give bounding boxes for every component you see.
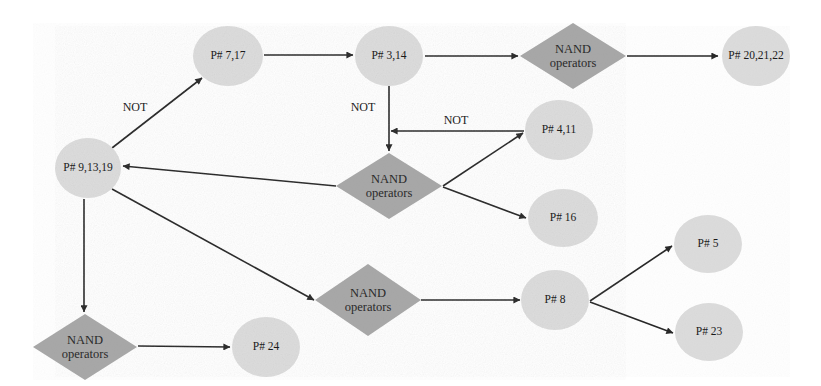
- label-nand-top: NAND operators: [550, 42, 597, 71]
- label-p5: P# 5: [698, 237, 719, 250]
- label-nand-mid: NAND operators: [366, 172, 413, 201]
- edge-label-not-p4-to-nand: NOT: [444, 114, 469, 127]
- nand-left-line1: NAND: [62, 333, 109, 347]
- state-nodes: [55, 26, 790, 377]
- edge-nand-mid-to-p9: [123, 166, 336, 186]
- edge-p8-to-p5: [590, 246, 672, 301]
- edge-nand-left-to-p24: [138, 346, 230, 347]
- label-nand-left: NAND operators: [62, 333, 109, 362]
- nand-mid-line2: operators: [366, 186, 413, 200]
- edge-p8-to-p23: [590, 302, 673, 333]
- label-p4-11: P# 4,11: [542, 123, 577, 136]
- label-p24: P# 24: [253, 340, 280, 353]
- nand-low-line1: NAND: [345, 286, 392, 300]
- label-nand-low: NAND operators: [345, 286, 392, 315]
- edge-nand-mid-to-p4: [443, 133, 523, 186]
- nand-top-line1: NAND: [550, 42, 597, 56]
- nand-left-line2: operators: [62, 347, 109, 361]
- label-p3-14: P# 3,14: [371, 49, 406, 62]
- edge-label-not-p9-to-p7: NOT: [123, 101, 148, 114]
- edge-label-not-p3-to-nand: NOT: [351, 101, 376, 114]
- label-p8: P# 8: [545, 293, 566, 306]
- nand-low-line2: operators: [345, 300, 392, 314]
- edge-p9-to-nand-low: [112, 189, 314, 300]
- label-p16: P# 16: [550, 211, 577, 224]
- edge-nand-mid-to-p16: [443, 187, 526, 218]
- nand-mid-line1: NAND: [366, 172, 413, 186]
- label-p7-17: P# 7,17: [210, 49, 245, 62]
- nand-top-line2: operators: [550, 56, 597, 70]
- label-p9-13-19: P# 9,13,19: [63, 161, 113, 174]
- label-p23: P# 23: [696, 325, 723, 338]
- label-p20-21-22: P# 20,21,22: [728, 49, 783, 62]
